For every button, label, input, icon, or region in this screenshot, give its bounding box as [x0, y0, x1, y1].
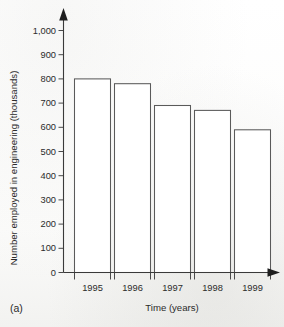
x-axis-arrow-icon: [268, 268, 281, 277]
y-tick-label-300: 300: [40, 195, 56, 205]
x-tick-label-1997: 1997: [162, 283, 183, 293]
bar-chart: Number employed in engineering (thousand…: [0, 0, 284, 327]
y-tick-label-0: 0: [51, 268, 56, 278]
y-tick-label-500: 500: [40, 147, 56, 157]
x-axis-ticks: [75, 273, 271, 280]
bar-1998: [195, 110, 231, 272]
y-tick-label-200: 200: [40, 219, 56, 229]
figure-label: (a): [10, 302, 23, 314]
x-tick-label-1996: 1996: [122, 283, 143, 293]
y-axis-ticks: [59, 31, 64, 273]
y-tick-label-900: 900: [40, 50, 56, 60]
y-axis-title: Number employed in engineering (thousand…: [8, 71, 19, 266]
y-axis-tick-labels: 1,000 900 800 700 600 500 400 300 200 10…: [33, 26, 56, 278]
x-axis-title: Time (years): [145, 302, 198, 313]
y-tick-label-1000: 1,000: [33, 26, 56, 36]
x-axis-tick-labels: 1995 1996 1997 1998 1999: [82, 283, 263, 293]
y-tick-label-700: 700: [40, 98, 56, 108]
bar-group: [75, 79, 271, 273]
bar-1997: [155, 106, 191, 273]
bar-1995: [75, 79, 111, 273]
y-tick-label-800: 800: [40, 74, 56, 84]
y-tick-label-100: 100: [40, 243, 56, 253]
x-tick-label-1998: 1998: [202, 283, 223, 293]
figure-container: Number employed in engineering (thousand…: [0, 0, 284, 327]
x-tick-label-1995: 1995: [82, 283, 103, 293]
x-tick-label-1999: 1999: [242, 283, 263, 293]
y-axis-arrow-icon: [59, 8, 68, 21]
bar-1996: [115, 84, 151, 273]
y-tick-label-400: 400: [40, 171, 56, 181]
bar-1999: [235, 130, 271, 273]
y-tick-label-600: 600: [40, 122, 56, 132]
